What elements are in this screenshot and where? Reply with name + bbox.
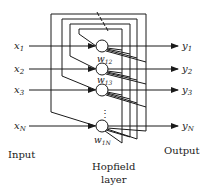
weight-label-w1n: w1N <box>94 135 112 146</box>
input-label-n: xN <box>14 120 27 133</box>
layer-caption-line1: Hopfield <box>92 161 136 172</box>
input-label-2: x2 <box>14 63 25 76</box>
output-label-2: y2 <box>181 63 193 76</box>
output-labels: y1 y2 y3 yN <box>181 40 195 133</box>
hopfield-network-diagram: ⋮ x1 x2 x3 xN y1 y2 y3 yN w12 w13 w1N In… <box>0 0 207 193</box>
input-label-1: x1 <box>14 40 24 53</box>
output-arrows <box>108 46 178 126</box>
output-caption: Output <box>164 145 200 156</box>
neuron-n <box>96 120 108 132</box>
neuron-1 <box>96 40 108 52</box>
output-label-3: y3 <box>181 84 193 97</box>
ellipsis: ⋮ <box>100 108 110 119</box>
input-caption: Input <box>8 149 35 160</box>
weight-label-w12: w12 <box>97 54 113 65</box>
input-label-3: x3 <box>14 84 25 97</box>
input-labels: x1 x2 x3 xN <box>14 40 27 133</box>
layer-caption-line2: layer <box>101 174 127 185</box>
output-label-n: yN <box>181 120 195 133</box>
weight-label-w13: w13 <box>97 75 113 86</box>
output-label-1: y1 <box>181 40 192 53</box>
